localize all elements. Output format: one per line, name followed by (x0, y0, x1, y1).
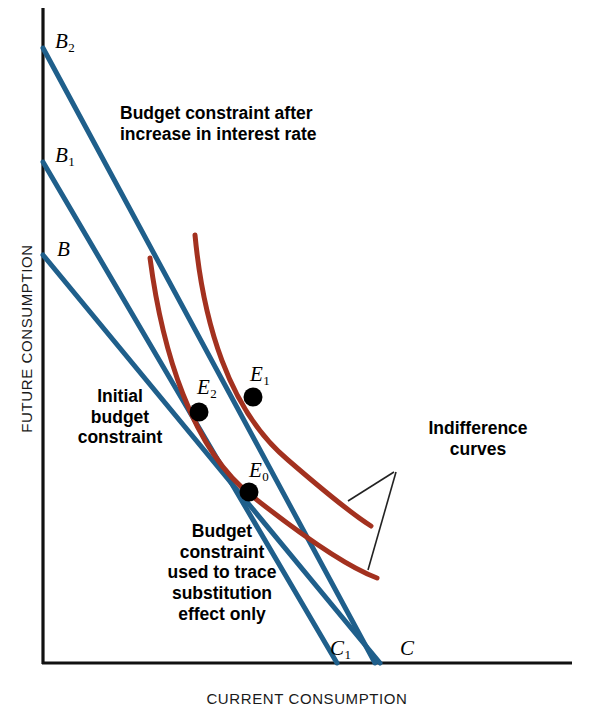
label-b1-sub: 1 (68, 154, 75, 169)
point-e2 (190, 403, 209, 422)
label-e0-base: E (249, 458, 262, 482)
label-b1-base: B (55, 143, 68, 167)
annotation-substitution-effect-constraint: Budget constraint used to trace substitu… (132, 521, 312, 624)
annotation-line: Initial (48, 386, 192, 407)
indifference-leader-line-upper (348, 472, 394, 501)
indifference-leader-line-lower (368, 472, 396, 570)
label-b2-sub: 2 (68, 40, 75, 55)
annotation-line: effect only (132, 604, 312, 625)
label-c: C (400, 636, 414, 661)
annotation-budget-after-rate-increase: Budget constraint after increase in inte… (120, 103, 410, 144)
label-c1: C1 (330, 636, 351, 661)
label-b2-base: B (55, 29, 68, 53)
label-e2-base: E (197, 375, 210, 399)
label-e1-sub: 1 (263, 373, 270, 388)
annotation-line: increase in interest rate (120, 124, 410, 145)
label-b2: B2 (55, 29, 74, 54)
label-e1-base: E (250, 362, 263, 386)
annotation-line: Budget (132, 521, 312, 542)
annotation-line: substitution (132, 583, 312, 604)
annotation-line: constraint (132, 542, 312, 563)
annotation-initial-budget-constraint: Initial budget constraint (48, 386, 192, 448)
annotation-indifference-curves: Indifference curves (398, 418, 558, 459)
intertemporal-choice-chart: FUTURE CONSUMPTION CURRENT CONSUMPTION B… (0, 0, 594, 719)
label-e1: E1 (250, 362, 269, 387)
label-c1-base: C (330, 636, 344, 660)
y-axis-title: FUTURE CONSUMPTION (18, 229, 35, 449)
annotation-line: Budget constraint after (120, 103, 410, 124)
x-axis-title: CURRENT CONSUMPTION (42, 690, 572, 707)
annotation-line: curves (398, 439, 558, 460)
label-e2-sub: 2 (210, 386, 217, 401)
label-b1: B1 (55, 143, 74, 168)
label-c-text: C (400, 636, 414, 660)
annotation-line: budget (48, 407, 192, 428)
annotation-line: Indifference (398, 418, 558, 439)
annotation-line: used to trace (132, 562, 312, 583)
annotation-line: constraint (48, 427, 192, 448)
point-e1 (244, 388, 263, 407)
label-b: B (57, 237, 70, 262)
label-e0: E0 (249, 458, 268, 483)
label-c1-sub: 1 (345, 647, 352, 662)
point-e0 (240, 483, 259, 502)
label-b-text: B (57, 237, 70, 261)
label-e2: E2 (197, 375, 216, 400)
label-e0-sub: 0 (262, 469, 269, 484)
